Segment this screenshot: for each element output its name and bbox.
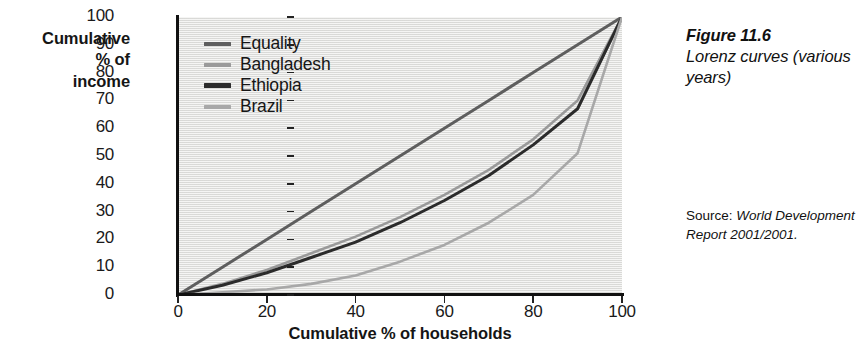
x-tick-label: 20 (245, 302, 289, 322)
figure-source: Source: World Development Report 2001/20… (686, 206, 862, 244)
source-prefix: Source: (686, 208, 736, 223)
x-tick-label: 60 (422, 302, 466, 322)
figure-caption-text: Lorenz curves (various years) (686, 46, 858, 89)
figure-caption-block: Figure 11.6 Lorenz curves (various years… (686, 26, 858, 89)
x-tick-label: 100 (600, 302, 644, 322)
figure-container: Cumulative % of income Equality Banglade… (0, 0, 865, 348)
figure-number: Figure 11.6 (686, 26, 858, 45)
x-tick-label: 80 (511, 302, 555, 322)
x-axis-ticks: 020406080100 (0, 0, 640, 348)
x-tick-label: 40 (334, 302, 378, 322)
x-tick-label: 0 (156, 302, 200, 322)
chart-block: Equality Bangladesh Ethiopia Brazil 0102… (0, 0, 640, 348)
x-axis-title: Cumulative % of households (178, 324, 622, 343)
